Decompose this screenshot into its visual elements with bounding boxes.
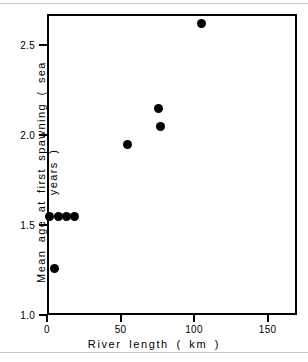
data-point <box>154 104 163 113</box>
x-tick-label: 150 <box>259 324 277 335</box>
x-tick-label: 50 <box>115 324 127 335</box>
y-tick-label: 1.0 <box>3 310 35 321</box>
data-point <box>156 122 165 131</box>
x-tick <box>120 315 122 322</box>
y-tick-label: 1.5 <box>3 220 35 231</box>
y-tick-label: 2.0 <box>3 130 35 141</box>
x-tick <box>193 315 195 322</box>
figure-page: 050100150 1.01.52.02.5 River length ( km… <box>0 0 308 362</box>
x-tick-label: 0 <box>44 324 50 335</box>
y-axis-label: Mean age at first spawning ( sea years ) <box>35 42 59 302</box>
plot-area <box>47 14 297 315</box>
x-tick <box>46 315 48 322</box>
x-axis-label: River length ( km ) <box>0 338 308 350</box>
x-tick-label: 100 <box>185 324 203 335</box>
y-tick-label: 2.5 <box>3 40 35 51</box>
scatter-chart: 050100150 1.01.52.02.5 River length ( km… <box>0 0 308 362</box>
data-point <box>197 19 206 28</box>
data-point <box>70 212 79 221</box>
data-point <box>123 140 132 149</box>
data-point <box>62 212 71 221</box>
y-tick <box>39 314 47 316</box>
x-tick <box>267 315 269 322</box>
